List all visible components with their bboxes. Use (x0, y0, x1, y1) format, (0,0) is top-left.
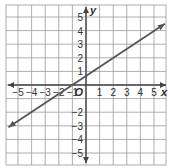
x-tick-label: 5 (151, 87, 157, 98)
y-tick-label: 1 (77, 66, 83, 77)
coordinate-plane: −5−4−3−2−11234554321−2−3−4−5Oxy (0, 0, 170, 168)
y-axis-arrow-up-icon (83, 7, 89, 13)
y-axis-arrow-down-icon (83, 157, 89, 163)
y-tick-label: 3 (77, 39, 83, 50)
y-tick-label: 4 (77, 26, 83, 37)
y-tick-label: −5 (72, 148, 84, 159)
x-tick-label: 3 (124, 87, 130, 98)
x-tick-label: 1 (97, 87, 103, 98)
tick-labels: −5−4−3−2−11234554321−2−3−4−5Oxy (12, 4, 168, 159)
y-axis-label: y (89, 4, 97, 16)
y-tick-label: −4 (72, 134, 84, 145)
x-tick-label: 4 (138, 87, 144, 98)
x-tick-label: −4 (26, 87, 38, 98)
y-tick-label: 2 (77, 53, 83, 64)
y-tick-label: 5 (77, 12, 83, 23)
y-tick-label: −2 (72, 107, 84, 118)
x-tick-label: 2 (110, 87, 116, 98)
x-tick-label: −5 (12, 87, 24, 98)
y-tick-label: −3 (72, 121, 84, 132)
x-tick-label: −3 (39, 87, 51, 98)
origin-label: O (74, 86, 83, 98)
x-axis-label: x (160, 86, 168, 98)
